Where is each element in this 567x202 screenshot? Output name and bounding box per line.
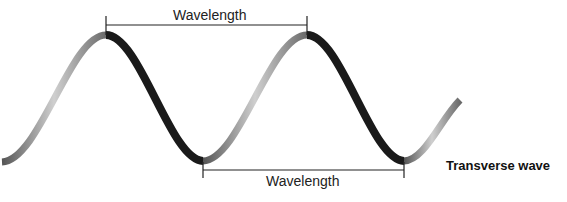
bottom-wavelength-label: Wavelength (266, 173, 339, 189)
wave-ribbon (2, 35, 460, 162)
top-wavelength-label: Wavelength (173, 7, 246, 23)
diagram-title: Transverse wave (446, 158, 550, 173)
